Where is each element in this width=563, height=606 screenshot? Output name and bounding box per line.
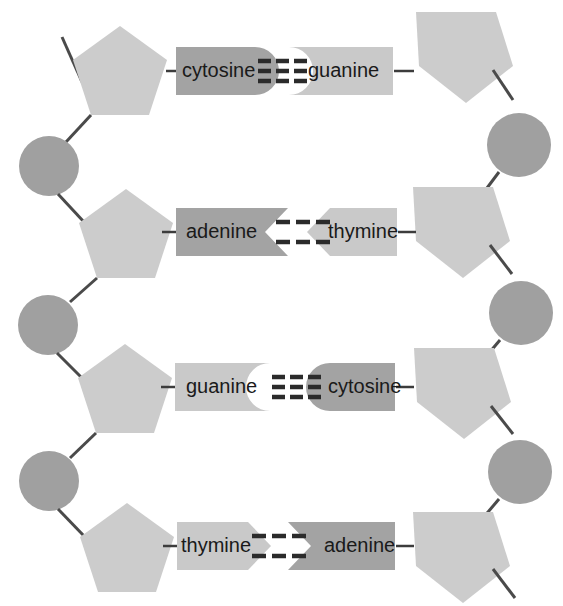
rung-1-left-label: cytosine [182,59,255,81]
rung-3: guanine cytosine [161,363,414,411]
right-sugar-1 [416,12,513,103]
rung-2-right-label: thymine [328,220,398,242]
rung-4-left-label: thymine [181,534,251,556]
right-sugar-3 [414,348,511,439]
left-bond-1 [66,115,91,142]
rung-3-right-label: cytosine [328,375,401,397]
right-sugar-4 [413,512,510,603]
right-phosphate-3 [488,440,552,504]
dna-structure-svg: cytosine guanine adenine thymine [0,0,563,606]
rung-1: cytosine guanine [166,47,414,95]
rung-2-left-label: adenine [186,220,257,242]
rung-1-right-label: guanine [308,59,379,81]
rung-4-right-label: adenine [324,534,395,556]
left-phosphate-3 [19,451,79,511]
left-phosphate-2 [18,295,78,355]
right-phosphate-2 [489,281,553,345]
left-sugar-3 [78,344,172,433]
left-bond-4 [57,353,83,379]
rung-3-left-label: guanine [186,375,257,397]
right-bond-1 [493,70,513,100]
left-phosphate-1 [19,136,79,196]
left-bond-6 [58,509,85,537]
left-bond-2 [58,194,84,222]
left-sugar-2 [79,189,173,278]
right-bond-3 [490,245,512,274]
dna-diagram-canvas: cytosine guanine adenine thymine [0,0,563,606]
right-phosphate-1 [487,113,551,177]
left-bond-3 [70,278,97,302]
right-bond-5 [491,406,513,434]
right-backbone [413,12,553,603]
left-backbone [18,26,174,592]
left-bond-5 [70,433,96,458]
left-sugar-1 [73,26,167,115]
left-sugar-4 [80,503,174,592]
rung-2: adenine thymine [162,208,416,256]
right-terminus-bond [493,569,515,598]
rung-4: thymine adenine [163,522,414,570]
right-sugar-2 [413,187,510,278]
